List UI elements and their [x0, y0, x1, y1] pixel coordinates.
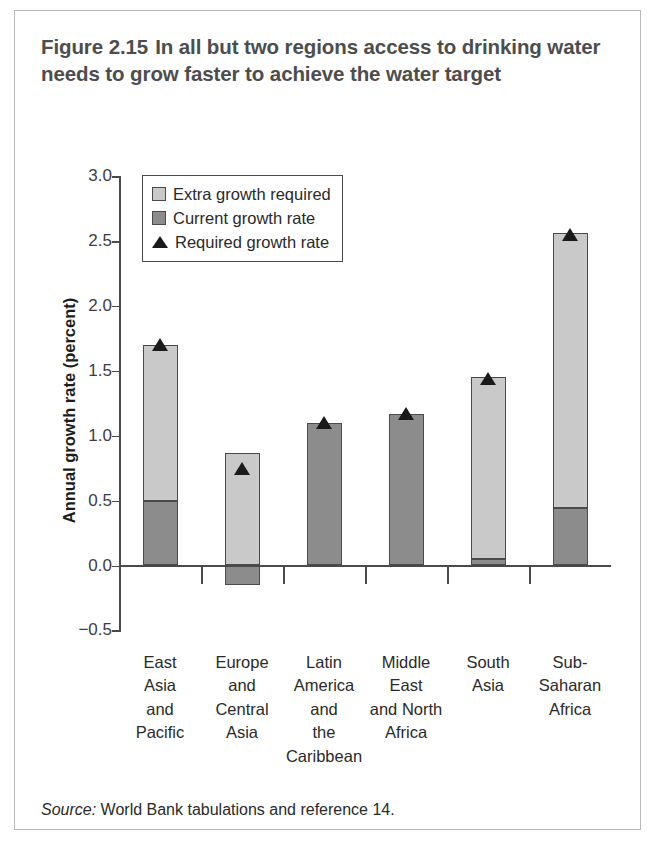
x-axis-label-line: Middle	[365, 651, 447, 674]
legend-item-required-growth: Required growth rate	[152, 230, 331, 254]
y-tick-label-4: 1.0	[66, 426, 112, 446]
bar-segment-current-growth[interactable]	[143, 501, 178, 566]
y-tick-label-7: −0.5	[66, 620, 112, 640]
y-tick-label-0: 3.0	[66, 166, 112, 186]
y-tick-mark-6	[112, 566, 120, 568]
x-axis-label-line: Sub-	[529, 651, 611, 674]
source-text: World Bank tabulations and reference 14.	[96, 801, 395, 818]
x-axis-label-line: South	[447, 651, 529, 674]
chart-legend: Extra growth required Current growth rat…	[142, 175, 343, 262]
y-tick-label-2: 2.0	[66, 296, 112, 316]
x-axis-label-line: Latin	[283, 651, 365, 674]
x-axis-label-line: Asia	[447, 674, 529, 697]
bar-segment-current-growth[interactable]	[553, 508, 588, 565]
legend-label-required: Required growth rate	[175, 233, 329, 252]
x-axis-label-line: East	[365, 674, 447, 697]
x-axis-label-1: EuropeandCentralAsia	[201, 651, 283, 745]
bar-segment-extra-growth[interactable]	[143, 345, 178, 501]
y-tick-label-3: 1.5	[66, 361, 112, 381]
chart-plot-area: Annual growth rate (percent) 3.02.52.01.…	[15, 11, 642, 831]
legend-item-current-growth: Current growth rate	[152, 206, 331, 230]
bar-segment-current-growth[interactable]	[471, 559, 506, 565]
x-axis-label-line: and	[119, 698, 201, 721]
y-tick-label-6: 0.0	[66, 556, 112, 576]
legend-swatch-extra-icon	[152, 187, 166, 201]
x-tick-mark-4	[447, 567, 449, 584]
required-growth-marker[interactable]	[480, 372, 496, 385]
y-tick-mark-1	[112, 241, 120, 243]
x-axis-label-line: the	[283, 721, 365, 744]
bar-segment-current-growth[interactable]	[307, 423, 342, 566]
source-label: Source:	[41, 801, 96, 818]
x-axis-label-2: LatinAmericaandtheCaribbean	[283, 651, 365, 768]
x-tick-mark-1	[201, 567, 203, 584]
required-growth-marker[interactable]	[398, 407, 414, 420]
x-axis-label-line: Saharan	[529, 674, 611, 697]
x-axis-label-line: and North	[365, 698, 447, 721]
x-axis-label-line: and	[201, 674, 283, 697]
x-axis-label-line: Pacific	[119, 721, 201, 744]
bar-segment-current-growth[interactable]	[225, 566, 260, 585]
y-tick-mark-7	[112, 630, 120, 632]
y-tick-mark-2	[112, 306, 120, 308]
x-axis-label-line: Africa	[365, 721, 447, 744]
x-axis-label-4: SouthAsia	[447, 651, 529, 698]
x-axis-label-line: Caribbean	[283, 745, 365, 768]
y-tick-label-1: 2.5	[66, 231, 112, 251]
legend-swatch-current-icon	[152, 211, 166, 225]
figure-card: Figure 2.15In all but two regions access…	[14, 10, 641, 830]
bar-segment-extra-growth[interactable]	[553, 233, 588, 508]
source-note: Source: World Bank tabulations and refer…	[41, 801, 395, 819]
x-axis-label-0: EastAsiaandPacific	[119, 651, 201, 745]
x-axis-label-line: America	[283, 674, 365, 697]
x-axis-label-line: Central	[201, 698, 283, 721]
legend-triangle-icon	[152, 236, 168, 248]
x-axis-label-3: MiddleEastand NorthAfrica	[365, 651, 447, 745]
x-axis-label-line: Asia	[119, 674, 201, 697]
y-tick-label-5: 0.5	[66, 491, 112, 511]
x-axis-label-line: and	[283, 698, 365, 721]
x-tick-mark-5	[529, 567, 531, 584]
legend-item-extra-growth: Extra growth required	[152, 182, 331, 206]
y-tick-mark-4	[112, 436, 120, 438]
bar-segment-extra-growth[interactable]	[471, 377, 506, 559]
x-axis-label-5: Sub-SaharanAfrica	[529, 651, 611, 721]
x-tick-mark-2	[283, 567, 285, 584]
required-growth-marker[interactable]	[234, 462, 250, 475]
x-axis-label-line: Asia	[201, 721, 283, 744]
x-tick-mark-3	[365, 567, 367, 584]
y-axis-line	[119, 176, 121, 632]
bar-segment-current-growth[interactable]	[389, 414, 424, 566]
legend-label-extra: Extra growth required	[173, 185, 331, 204]
y-tick-mark-0	[112, 176, 120, 178]
y-tick-mark-5	[112, 501, 120, 503]
x-axis-label-line: Europe	[201, 651, 283, 674]
x-axis-label-line: Africa	[529, 698, 611, 721]
legend-label-current: Current growth rate	[173, 209, 315, 228]
required-growth-marker[interactable]	[152, 338, 168, 351]
x-axis-label-line: East	[119, 651, 201, 674]
required-growth-marker[interactable]	[562, 228, 578, 241]
y-tick-mark-3	[112, 371, 120, 373]
required-growth-marker[interactable]	[316, 416, 332, 429]
